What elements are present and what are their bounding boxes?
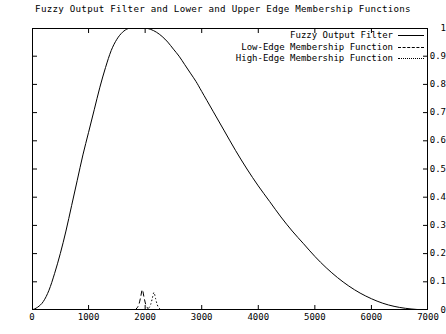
y-tick-label: 0.8	[416, 80, 446, 89]
legend-key-solid-icon	[398, 32, 424, 39]
x-tick-label: 6000	[341, 313, 401, 322]
y-tick-label: 0.5	[416, 165, 446, 174]
plot-area	[32, 28, 428, 310]
legend-item: Low-Edge Membership Function	[236, 42, 424, 54]
x-tick-label: 2000	[115, 313, 175, 322]
legend-label: Fuzzy Output Filter	[290, 30, 393, 42]
series-line	[135, 290, 149, 310]
legend-key-dashed-icon	[398, 44, 424, 51]
legend-item: Fuzzy Output Filter	[236, 30, 424, 42]
legend-label: Low-Edge Membership Function	[241, 42, 393, 54]
y-tick-label: 0.4	[416, 193, 446, 202]
legend-label: High-Edge Membership Function	[236, 53, 393, 65]
y-tick-label: 0.2	[416, 249, 446, 258]
x-tick-label: 5000	[285, 313, 345, 322]
y-tick-label: 0.6	[416, 136, 446, 145]
legend-item: High-Edge Membership Function	[236, 53, 424, 65]
x-tick-label: 3000	[172, 313, 232, 322]
x-tick-label: 0	[2, 313, 62, 322]
legend-key-dotted-icon	[398, 55, 424, 62]
series-line	[146, 293, 161, 310]
chart-legend: Fuzzy Output Filter Low-Edge Membership …	[236, 30, 424, 65]
x-tick-label: 7000	[398, 313, 446, 322]
series-line	[32, 28, 428, 310]
x-tick-label: 4000	[228, 313, 288, 322]
chart-figure: Fuzzy Output Filter and Lower and Upper …	[0, 0, 446, 334]
y-tick-label: 0.1	[416, 277, 446, 286]
x-tick-label: 1000	[59, 313, 119, 322]
chart-title: Fuzzy Output Filter and Lower and Upper …	[0, 3, 446, 14]
y-tick-label: 0.7	[416, 108, 446, 117]
y-tick-label: 0.3	[416, 221, 446, 230]
